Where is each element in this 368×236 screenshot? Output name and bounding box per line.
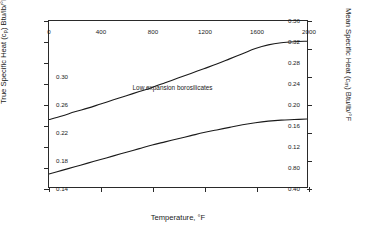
y-axis-right-tick-label: 0.30 [56,74,68,80]
y-axis-left-tick-mark [44,42,49,43]
y-axis-right-tick-mark [307,161,312,162]
y-axis-left-title: True Specific Heat (cp) Btu/lb/°F [0,0,9,104]
y-axis-right-title: Mean Specific Heat (cm) Btu/lb/°F [343,8,352,121]
y-axis-left-tick-label: 0.40 [288,186,300,192]
curves-svg [49,21,307,187]
x-axis-tick-label: 800 [148,29,158,35]
y-axis-right-tick-label: 0.22 [56,130,68,136]
y-axis-left-tick-mark [44,168,49,169]
plot-area: 0.400.800.120.160.200.240.280.320.36 0.1… [48,20,308,188]
y-axis-left-tick-label: 0.16 [288,123,300,129]
series-line-true-specific-heat [49,41,307,119]
x-axis-tick-mark [49,187,50,192]
y-axis-left-tick-mark [44,63,49,64]
x-axis-tick-label: 0 [47,29,50,35]
y-axis-left-tick-mark [44,21,49,22]
y-axis-right-tick-label: 0.14 [56,186,68,192]
x-axis-tick-label: 1600 [250,29,264,35]
series-line-mean-specific-heat [49,119,307,174]
x-axis-tick-mark [101,187,102,192]
y-axis-right-tick-label: 0.26 [56,102,68,108]
y-axis-left-tick-mark [44,105,49,106]
y-axis-left-tick-label: 0.28 [288,60,300,66]
x-axis-tick-label: 2000 [302,29,316,35]
x-axis-tick-mark [205,187,206,192]
x-axis-tick-mark [257,187,258,192]
y-axis-left-tick-label: 0.20 [288,102,300,108]
x-axis-tick-mark [153,187,154,192]
x-axis-title: Temperature, °F [151,214,206,222]
y-axis-right-tick-label: 0.18 [56,158,68,164]
y-axis-left-tick-label: 0.32 [288,39,300,45]
y-axis-left-tick-label: 0.80 [288,165,300,171]
chart-figure: 0.400.800.120.160.200.240.280.320.36 0.1… [0,0,368,236]
y-axis-right-tick-mark [307,21,312,22]
x-axis-tick-mark [309,187,310,192]
y-axis-left-tick-mark [44,84,49,85]
y-axis-right-tick-mark [307,133,312,134]
y-axis-left-tick-label: 0.24 [288,81,300,87]
y-axis-left-tick-mark [44,126,49,127]
x-axis-tick-label: 1200 [198,29,212,35]
y-axis-left-tick-label: 0.36 [288,18,300,24]
y-axis-left-tick-mark [44,147,49,148]
y-axis-right-tick-mark [307,105,312,106]
y-axis-right-tick-mark [307,49,312,50]
y-axis-right-tick-mark [307,77,312,78]
y-axis-left-tick-label: 0.12 [288,144,300,150]
x-axis-tick-label: 400 [96,29,106,35]
series-annotation-label: Low expansion borosilicates [133,85,213,91]
